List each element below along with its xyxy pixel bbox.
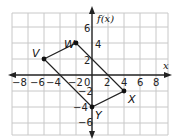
label-v: V	[32, 47, 41, 60]
y-tick-label: 6	[84, 23, 90, 34]
x-tick-label: 2	[104, 77, 110, 88]
x-tick-label: 8	[153, 77, 159, 88]
x-tick-label: 4	[121, 77, 127, 88]
point-v	[42, 57, 47, 62]
point-y	[90, 105, 95, 110]
y-tick-label: −6	[78, 117, 93, 128]
y-tick-label: −4	[73, 102, 88, 113]
label-y: Y	[95, 109, 103, 122]
x-tick-label: −4	[46, 77, 61, 88]
x-axis-label: x	[163, 60, 169, 71]
y-axis-up-arrow-icon	[89, 6, 95, 14]
x-tick-label: −6	[30, 77, 45, 88]
label-w: W	[64, 38, 76, 51]
x-tick-label: 6	[137, 77, 143, 88]
point-x	[122, 89, 127, 94]
y-axis-label: f(x)	[96, 13, 114, 24]
x-tick-label: −8	[12, 77, 27, 88]
label-x: X	[127, 93, 136, 106]
y-tick-label: 4	[95, 39, 101, 50]
coordinate-plane: x f(x) −8 −6 −4 −2 0 2 4 6 8 6 4 2 −2 −4…	[0, 0, 176, 139]
